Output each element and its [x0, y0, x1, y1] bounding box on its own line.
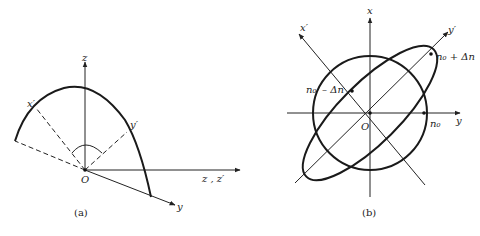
label-x-prime: x′	[27, 98, 36, 109]
point-n0	[422, 111, 426, 115]
label-y-prime: y′	[447, 24, 457, 35]
dashed-line-x-prime	[36, 108, 85, 170]
dashed-line-left	[15, 141, 85, 170]
label-x-prime: x′	[300, 22, 309, 33]
origin-point	[368, 111, 372, 115]
point-n0-minus-dn	[350, 89, 354, 93]
y-prime-axis	[295, 32, 448, 183]
panel-a: z x′ y′ O z , z′ y (a)	[15, 52, 240, 218]
figure-canvas: z x′ y′ O z , z′ y (a) x x′ y′ n₀ + Δn n…	[0, 0, 480, 236]
label-y: y	[455, 115, 462, 126]
y-axis	[85, 170, 175, 205]
caption-a: (a)	[74, 207, 88, 218]
angle-arc	[72, 145, 102, 153]
label-x: x	[367, 5, 373, 16]
label-z-z-prime: z , z′	[201, 173, 225, 184]
label-n0: n₀	[430, 118, 440, 129]
label-y-prime: y′	[129, 119, 139, 130]
label-origin: O	[81, 174, 89, 185]
label-z: z	[81, 52, 88, 63]
label-n0-plus-dn: n₀ + Δn	[436, 51, 475, 62]
label-n0-left: n₀	[306, 84, 316, 95]
point-n0-plus-dn	[429, 52, 433, 56]
origin-point	[83, 168, 87, 172]
label-minus-dn: – Δn	[322, 84, 344, 95]
panel-b: x x′ y′ n₀ + Δn n₀ – Δn O n₀ y (b)	[285, 5, 475, 218]
dashed-line-y-prime	[85, 132, 127, 170]
caption-b: (b)	[362, 207, 376, 218]
label-y: y	[176, 201, 183, 212]
label-origin: O	[361, 121, 369, 132]
